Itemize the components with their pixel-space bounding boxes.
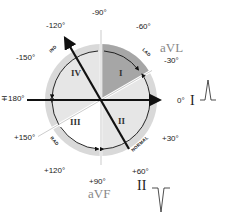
lead-ii-waveform-icon xyxy=(152,188,170,212)
angle-label-minus150: -150° xyxy=(16,53,35,62)
angle-label-plus60: +60° xyxy=(132,167,149,176)
lead-label-avl: aVL xyxy=(160,40,183,55)
arc-label-lad: LAD xyxy=(141,47,152,58)
angle-label-minus30: -30° xyxy=(164,56,179,65)
angle-label-plus30: +30° xyxy=(162,134,179,143)
axis-diagram: -90° -60° -30° 0° +30° +60° +90° +120° +… xyxy=(0,0,225,222)
quadrant-label-ii: II xyxy=(118,116,126,126)
lead-label-ii: II xyxy=(137,178,147,193)
angle-label-plus150: +150° xyxy=(14,133,35,142)
quadrant-label-iii: III xyxy=(70,117,81,127)
angle-label-zero: 0° xyxy=(177,96,185,105)
lead-label-i: I xyxy=(190,93,195,108)
angle-label-minus120: -120° xyxy=(46,21,65,30)
angle-label-minus60: -60° xyxy=(136,22,151,31)
lead-label-avf: aVF xyxy=(88,186,110,201)
angle-label-plus180: ∓180° xyxy=(1,94,25,103)
quadrant-label-i: I xyxy=(119,68,123,78)
arc-label-rad: RAD xyxy=(49,135,60,147)
angle-label-plus90: +90° xyxy=(89,177,106,186)
quadrant-label-iv: IV xyxy=(71,68,82,78)
arc-label-ind: IND xyxy=(48,44,58,54)
angle-label-minus90: -90° xyxy=(92,8,107,17)
angle-label-plus120: +120° xyxy=(44,166,65,175)
lead-i-waveform-icon xyxy=(200,80,216,100)
